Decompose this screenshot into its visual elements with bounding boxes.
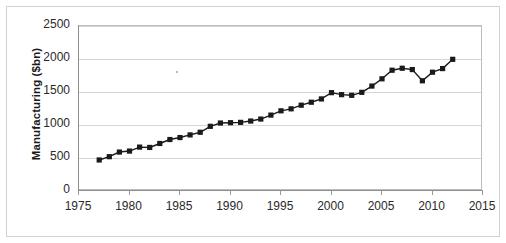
data-point-marker bbox=[137, 145, 142, 150]
data-point-marker bbox=[359, 90, 364, 95]
data-point-marker bbox=[299, 103, 304, 108]
data-point-marker bbox=[198, 130, 203, 135]
x-tick-2015: 2015 bbox=[458, 199, 506, 213]
data-point-marker bbox=[248, 118, 253, 123]
data-point-marker bbox=[218, 120, 223, 125]
data-point-marker bbox=[349, 93, 354, 98]
y-tick-1000: 1000 bbox=[18, 116, 70, 130]
data-point-marker bbox=[420, 78, 425, 83]
data-point-marker bbox=[147, 145, 152, 150]
data-point-marker bbox=[440, 66, 445, 71]
data-point-marker bbox=[410, 67, 415, 72]
y-tick-1500: 1500 bbox=[18, 83, 70, 97]
data-point-marker bbox=[127, 148, 132, 153]
data-point-marker bbox=[309, 100, 314, 105]
data-point-marker bbox=[177, 135, 182, 140]
data-series-layer bbox=[79, 26, 483, 191]
x-axis-line bbox=[78, 190, 482, 191]
y-axis-line bbox=[78, 25, 79, 190]
data-point-marker bbox=[289, 106, 294, 111]
image-speck bbox=[176, 71, 178, 73]
chart-figure: Manufacturing ($bn) 05001000150020002500… bbox=[0, 0, 506, 243]
data-point-marker bbox=[390, 68, 395, 73]
data-point-marker bbox=[319, 96, 324, 101]
data-point-marker bbox=[157, 141, 162, 146]
data-point-marker bbox=[400, 66, 405, 71]
plot-area bbox=[78, 25, 482, 190]
data-point-marker bbox=[450, 57, 455, 62]
data-point-marker bbox=[188, 132, 193, 137]
y-tick-0: 0 bbox=[18, 182, 70, 196]
x-tick-2000: 2000 bbox=[307, 199, 355, 213]
x-tick-1980: 1980 bbox=[105, 199, 153, 213]
y-tick-2500: 2500 bbox=[18, 17, 70, 31]
data-point-marker bbox=[329, 90, 334, 95]
data-point-marker bbox=[167, 137, 172, 142]
y-tick-2000: 2000 bbox=[18, 50, 70, 64]
data-point-marker bbox=[117, 149, 122, 154]
data-point-marker bbox=[379, 76, 384, 81]
data-point-marker bbox=[278, 108, 283, 113]
data-point-marker bbox=[228, 120, 233, 125]
data-point-marker bbox=[258, 116, 263, 121]
data-point-marker bbox=[369, 83, 374, 88]
x-tick-2005: 2005 bbox=[357, 199, 405, 213]
x-tick-1985: 1985 bbox=[155, 199, 203, 213]
x-tick-1990: 1990 bbox=[206, 199, 254, 213]
data-point-marker bbox=[268, 113, 273, 118]
data-point-marker bbox=[208, 124, 213, 129]
data-point-marker bbox=[97, 157, 102, 162]
data-point-marker bbox=[107, 154, 112, 159]
x-tick-2010: 2010 bbox=[408, 199, 456, 213]
data-point-marker bbox=[238, 120, 243, 125]
x-tick-1975: 1975 bbox=[54, 199, 102, 213]
x-tick-1995: 1995 bbox=[256, 199, 304, 213]
y-tick-500: 500 bbox=[18, 149, 70, 163]
y-axis-label: Manufacturing ($bn) bbox=[30, 9, 42, 199]
data-point-marker bbox=[430, 70, 435, 75]
data-point-marker bbox=[339, 92, 344, 97]
